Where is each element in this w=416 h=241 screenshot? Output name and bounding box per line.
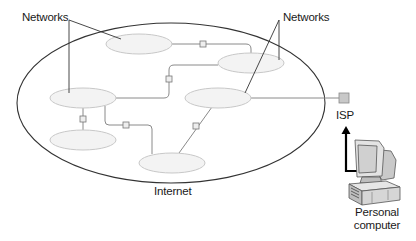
internet-label: Internet (154, 185, 191, 198)
networks-label-left: Networks (22, 11, 68, 24)
router-icon (193, 123, 199, 129)
network-top-right (218, 53, 284, 73)
network-left (50, 88, 116, 108)
network-middle-right (185, 88, 251, 108)
networks (50, 34, 284, 173)
network-bottom-left (50, 130, 116, 150)
pc-label-line2: computer (345, 219, 409, 232)
personal-computer-label: Personal computer (345, 206, 409, 232)
networks-label-right: Networks (283, 11, 329, 24)
router-icon (80, 116, 86, 122)
isp-label: ISP (336, 109, 354, 122)
router-icon (166, 76, 172, 82)
isp-box (339, 93, 349, 103)
router-icon (123, 122, 129, 128)
network-bottom (139, 153, 205, 173)
pc-label-line1: Personal (345, 206, 409, 219)
personal-computer-icon (349, 140, 400, 205)
router-icon (200, 41, 206, 47)
arrow-icon (342, 126, 358, 171)
